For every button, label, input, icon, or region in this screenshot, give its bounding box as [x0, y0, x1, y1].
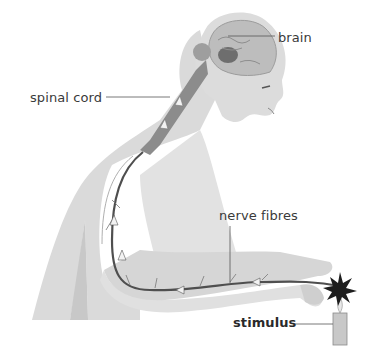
label-stimulus: stimulus	[233, 315, 296, 330]
label-brain: brain	[278, 30, 312, 45]
body-illustration	[0, 0, 369, 357]
flame-burst-icon	[323, 272, 357, 306]
reflex-diagram: brain spinal cord nerve fibres stimulus	[0, 0, 369, 357]
label-nerve-fibres: nerve fibres	[219, 208, 298, 223]
label-spinal-cord: spinal cord	[30, 90, 102, 105]
